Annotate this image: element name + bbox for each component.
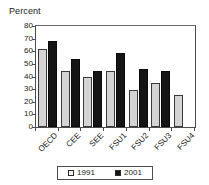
bar-cee-2001 [71,59,80,127]
legend-entry-2001: 2001 [115,169,142,177]
chart-legend: 1991 2001 [57,166,153,180]
bars-layer [36,26,195,127]
y-axis-tick-label: 40 [9,73,33,81]
y-axis-tick-label: 80 [9,22,33,30]
legend-label-1991: 1991 [77,169,95,177]
y-axis-tick-label: 30 [9,85,33,93]
y-axis-tick-label: 70 [9,35,33,43]
x-axis-label-oecd: OECD [37,131,60,154]
x-axis-label-see: SEE [87,131,105,149]
legend-swatch-2001-icon [115,170,121,176]
bar-fsu1-1991 [106,71,115,127]
bar-fsu2-1991 [129,90,138,127]
y-axis-tick-labels: 80706050403020100 [7,25,33,128]
y-axis-tick-label: 60 [9,47,33,55]
legend-label-2001: 2001 [124,169,142,177]
bar-see-2001 [93,71,102,127]
bar-cee-1991 [61,71,70,127]
bar-fsu2-2001 [139,69,148,127]
bar-chart-figure: Percent 80706050403020100 OECDCEESEEFSU1… [0,0,209,185]
bar-see-1991 [83,77,92,128]
x-axis-label-fsu3: FSU3 [152,131,173,152]
y-axis-tick-label: 0 [9,123,33,131]
y-axis-tick-label: 10 [9,110,33,118]
y-axis-tick-label: 20 [9,98,33,106]
bar-fsu4-1991 [174,95,183,127]
y-axis-title: Percent [9,6,41,16]
bar-fsu3-1991 [151,83,160,127]
bar-fsu3-2001 [161,71,170,127]
bar-fsu1-2001 [116,53,125,127]
bar-oecd-1991 [38,49,47,127]
x-axis-label-fsu2: FSU2 [130,131,151,152]
x-axis-label-fsu4: FSU4 [175,131,196,152]
x-axis-label-cee: CEE [64,131,82,149]
x-axis-category-labels: OECDCEESEEFSU1FSU2FSU3FSU4 [35,128,196,162]
bar-oecd-2001 [48,41,57,127]
legend-swatch-1991-icon [68,170,74,176]
x-axis-label-fsu1: FSU1 [107,131,128,152]
legend-entry-1991: 1991 [68,169,95,177]
y-axis-tick-label: 50 [9,60,33,68]
